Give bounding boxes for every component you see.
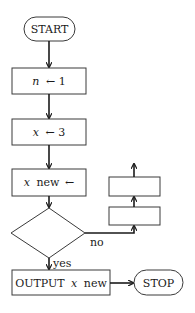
step2-var: x <box>33 126 40 139</box>
flowchart-canvas: START n ← 1 x ← 3 x new ← <box>0 0 195 313</box>
step3-arrow: ← <box>65 176 74 189</box>
no-label: no <box>90 236 104 249</box>
output-var: x <box>71 277 78 290</box>
process-box-n-assign: n ← 1 <box>12 68 86 94</box>
step3-suffix: new <box>36 176 60 189</box>
side-box-upper <box>109 177 160 196</box>
process-box-xnew-assign: x new ← <box>12 169 86 196</box>
step2-arrow: ← <box>46 126 55 139</box>
yes-label: yes <box>52 257 72 270</box>
step1-value: 1 <box>59 75 66 88</box>
svg-text:x ← 3: x ← 3 <box>33 126 65 139</box>
svg-text:OUTPUT x new: OUTPUT x new <box>15 277 107 290</box>
step2-value: 3 <box>58 126 65 139</box>
output-prefix: OUTPUT <box>15 277 65 290</box>
output-suffix: new <box>84 277 108 290</box>
process-box-x-assign: x ← 3 <box>12 119 86 145</box>
svg-text:x new ←: x new ← <box>24 176 74 189</box>
step1-var: n <box>32 75 39 88</box>
svg-text:n ← 1: n ← 1 <box>32 75 65 88</box>
output-box: OUTPUT x new <box>12 270 110 295</box>
arrow-decision-no <box>85 226 134 233</box>
step1-arrow: ← <box>46 75 55 88</box>
start-terminator: START <box>24 17 75 41</box>
step3-var: x <box>24 176 31 189</box>
decision-diamond <box>11 208 85 258</box>
start-label: START <box>31 23 69 36</box>
stop-label: STOP <box>143 277 175 290</box>
stop-terminator: STOP <box>134 270 183 295</box>
side-box-lower <box>109 207 160 225</box>
